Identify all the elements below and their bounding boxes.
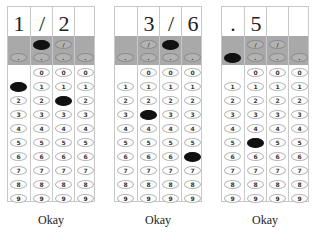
- decimal-bubble[interactable]: .: [117, 53, 134, 62]
- digit-bubble-5[interactable]: 5: [269, 138, 286, 147]
- digit-bubble-1[interactable]: 1: [269, 82, 286, 91]
- digit-bubble-1[interactable]: 1: [291, 82, 308, 91]
- digit-bubble-1[interactable]: 1: [247, 82, 264, 91]
- digit-bubble-3[interactable]: 3: [117, 110, 134, 119]
- decimal-bubble[interactable]: .: [33, 53, 50, 62]
- digit-bubble-8[interactable]: 8: [291, 180, 308, 189]
- digit-bubble-8[interactable]: 8: [55, 180, 72, 189]
- digit-bubble-6[interactable]: 6: [10, 152, 27, 161]
- decimal-bubble[interactable]: .: [55, 53, 72, 62]
- digit-bubble-9[interactable]: 9: [55, 194, 72, 203]
- digit-bubble-1[interactable]: 1: [33, 82, 50, 91]
- digit-bubble-6[interactable]: 6: [291, 152, 308, 161]
- digit-bubble-7[interactable]: 7: [33, 166, 50, 175]
- digit-bubble-4[interactable]: 4: [33, 124, 50, 133]
- digit-bubble-3[interactable]: 3: [224, 110, 241, 119]
- digit-bubble-7[interactable]: 7: [140, 166, 157, 175]
- digit-bubble-5[interactable]: 5: [247, 138, 264, 148]
- decimal-bubble[interactable]: .: [77, 53, 94, 62]
- digit-bubble-1[interactable]: 1: [117, 82, 134, 91]
- digit-bubble-4[interactable]: 4: [224, 124, 241, 133]
- digit-bubble-2[interactable]: 2: [291, 96, 308, 105]
- digit-bubble-3[interactable]: 3: [10, 110, 27, 119]
- digit-bubble-5[interactable]: 5: [224, 138, 241, 147]
- digit-bubble-4[interactable]: 4: [117, 124, 134, 133]
- digit-bubble-9[interactable]: 9: [10, 194, 27, 203]
- digit-bubble-8[interactable]: 8: [224, 180, 241, 189]
- digit-bubble-6[interactable]: 6: [224, 152, 241, 161]
- digit-bubble-1[interactable]: 1: [140, 82, 157, 91]
- digit-bubble-2[interactable]: 2: [117, 96, 134, 105]
- digit-bubble-0[interactable]: 0: [269, 68, 286, 77]
- digit-bubble-3[interactable]: 3: [162, 110, 179, 119]
- digit-bubble-1[interactable]: 1: [77, 82, 94, 91]
- decimal-bubble[interactable]: .: [162, 53, 179, 62]
- digit-bubble-1[interactable]: 1: [224, 82, 241, 91]
- digit-bubble-5[interactable]: 5: [55, 138, 72, 147]
- decimal-bubble[interactable]: .: [247, 53, 264, 62]
- digit-bubble-4[interactable]: 4: [291, 124, 308, 133]
- digit-bubble-0[interactable]: 0: [33, 68, 50, 77]
- digit-bubble-6[interactable]: 6: [269, 152, 286, 161]
- digit-bubble-0[interactable]: 0: [162, 68, 179, 77]
- digit-bubble-1[interactable]: 1: [55, 82, 72, 91]
- digit-bubble-5[interactable]: 5: [162, 138, 179, 147]
- digit-bubble-8[interactable]: 8: [33, 180, 50, 189]
- digit-bubble-7[interactable]: 7: [291, 166, 308, 175]
- digit-bubble-7[interactable]: 7: [77, 166, 94, 175]
- digit-bubble-2[interactable]: 2: [224, 96, 241, 105]
- digit-bubble-6[interactable]: 6: [117, 152, 134, 161]
- decimal-bubble[interactable]: .: [184, 53, 201, 62]
- digit-bubble-2[interactable]: 2: [184, 96, 201, 105]
- digit-bubble-6[interactable]: 6: [140, 152, 157, 161]
- digit-bubble-7[interactable]: 7: [224, 166, 241, 175]
- decimal-bubble[interactable]: .: [269, 53, 286, 62]
- digit-bubble-4[interactable]: 4: [10, 124, 27, 133]
- digit-bubble-9[interactable]: 9: [184, 194, 201, 203]
- slash-bubble[interactable]: /: [140, 40, 157, 49]
- digit-bubble-8[interactable]: 8: [162, 180, 179, 189]
- digit-bubble-3[interactable]: 3: [55, 110, 72, 119]
- slash-bubble[interactable]: /: [33, 40, 50, 50]
- digit-bubble-8[interactable]: 8: [247, 180, 264, 189]
- digit-bubble-0[interactable]: 0: [184, 68, 201, 77]
- digit-bubble-7[interactable]: 7: [10, 166, 27, 175]
- digit-bubble-7[interactable]: 7: [247, 166, 264, 175]
- digit-bubble-2[interactable]: 2: [55, 96, 72, 106]
- digit-bubble-7[interactable]: 7: [269, 166, 286, 175]
- digit-bubble-9[interactable]: 9: [33, 194, 50, 203]
- slash-bubble[interactable]: /: [247, 40, 264, 49]
- digit-bubble-8[interactable]: 8: [10, 180, 27, 189]
- digit-bubble-0[interactable]: 0: [291, 68, 308, 77]
- digit-bubble-0[interactable]: 0: [140, 68, 157, 77]
- digit-bubble-5[interactable]: 5: [117, 138, 134, 147]
- decimal-bubble[interactable]: .: [291, 53, 308, 62]
- digit-bubble-6[interactable]: 6: [55, 152, 72, 161]
- decimal-bubble[interactable]: .: [10, 53, 27, 62]
- digit-bubble-2[interactable]: 2: [140, 96, 157, 105]
- digit-bubble-9[interactable]: 9: [247, 194, 264, 203]
- digit-bubble-5[interactable]: 5: [184, 138, 201, 147]
- digit-bubble-0[interactable]: 0: [247, 68, 264, 77]
- digit-bubble-8[interactable]: 8: [269, 180, 286, 189]
- digit-bubble-2[interactable]: 2: [10, 96, 27, 105]
- digit-bubble-9[interactable]: 9: [117, 194, 134, 203]
- digit-bubble-7[interactable]: 7: [162, 166, 179, 175]
- digit-bubble-3[interactable]: 3: [140, 110, 157, 120]
- digit-bubble-2[interactable]: 2: [77, 96, 94, 105]
- digit-bubble-7[interactable]: 7: [117, 166, 134, 175]
- digit-bubble-1[interactable]: 1: [184, 82, 201, 91]
- digit-bubble-9[interactable]: 9: [224, 194, 241, 203]
- slash-bubble[interactable]: /: [55, 40, 72, 49]
- digit-bubble-2[interactable]: 2: [33, 96, 50, 105]
- digit-bubble-5[interactable]: 5: [77, 138, 94, 147]
- digit-bubble-8[interactable]: 8: [140, 180, 157, 189]
- digit-bubble-3[interactable]: 3: [77, 110, 94, 119]
- decimal-bubble[interactable]: .: [224, 53, 241, 63]
- digit-bubble-6[interactable]: 6: [33, 152, 50, 161]
- digit-bubble-5[interactable]: 5: [10, 138, 27, 147]
- digit-bubble-4[interactable]: 4: [247, 124, 264, 133]
- digit-bubble-3[interactable]: 3: [33, 110, 50, 119]
- digit-bubble-8[interactable]: 8: [184, 180, 201, 189]
- digit-bubble-4[interactable]: 4: [140, 124, 157, 133]
